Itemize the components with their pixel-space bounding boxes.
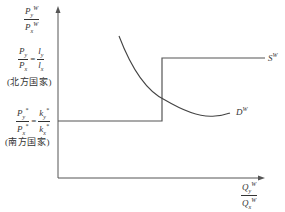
supply-curve-label: SW bbox=[268, 52, 278, 63]
y-axis-label: PyW PxW bbox=[24, 5, 39, 34]
north-country-label: (北方国家) bbox=[7, 78, 52, 87]
demand-curve-label: DW bbox=[236, 106, 248, 117]
south-price-ratio: Py* Px* = ky* kx* bbox=[16, 107, 50, 136]
north-price-ratio: Py Px = ly lx bbox=[18, 47, 44, 72]
x-axis-label: QyW QxW bbox=[241, 181, 257, 210]
supply-curve bbox=[58, 58, 265, 121]
demand-curve bbox=[119, 36, 230, 116]
y-axis-arrow-icon bbox=[56, 6, 61, 13]
south-country-label: (南方国家) bbox=[5, 138, 50, 147]
x-axis-arrow-icon bbox=[258, 176, 265, 181]
